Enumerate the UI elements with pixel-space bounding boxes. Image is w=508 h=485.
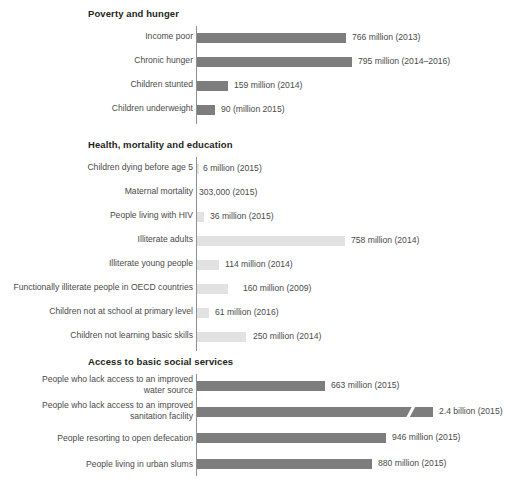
section-title: Health, mortality and education [88, 139, 233, 150]
bar-shape [197, 332, 246, 342]
bar-shape [197, 381, 325, 391]
bar-row: Functionally illiterate people in OECD c… [0, 277, 508, 301]
bar-shape [197, 308, 209, 318]
bar-shape [197, 105, 215, 115]
section-title: Poverty and hunger [88, 8, 179, 19]
bar-row-label: People who lack access to an improved wa… [8, 374, 193, 395]
bar-shape [197, 459, 372, 469]
bar-row-label: Chronic hunger [8, 55, 193, 66]
bar-shape [197, 33, 346, 43]
bar-value-label: 663 million (2015) [331, 380, 399, 390]
bar-shape [197, 81, 228, 91]
bar-shape [197, 212, 204, 222]
bar-value-label: 90 (million 2015) [221, 104, 285, 114]
bar-row-label: Functionally illiterate people in OECD c… [8, 282, 193, 293]
bar-row: Children not at school at primary level … [0, 301, 508, 325]
bar-row-label: People resorting to open defecation [8, 433, 193, 444]
bar-value-label: 946 million (2015) [392, 432, 460, 442]
bar-row: Income poor 766 million (2013) [0, 26, 508, 50]
bar-value-label: 795 million (2014–2016) [358, 56, 450, 66]
bar-shape [197, 57, 352, 67]
bar-row-label: People living with HIV [8, 210, 193, 221]
bar-row-label: Children stunted [8, 79, 193, 90]
bar-row-label: Income poor [8, 31, 193, 42]
bar-row-label: Illiterate adults [8, 234, 193, 245]
bar-row: Illiterate young people 114 million (201… [0, 253, 508, 277]
axis-break-icon [405, 406, 417, 418]
bar-row-label: Maternal mortality [8, 186, 193, 197]
bar-value-label: 250 million (2014) [253, 331, 321, 341]
bar-shape [197, 284, 228, 294]
bar-row: Children dying before age 5 6 million (2… [0, 157, 508, 181]
bar-row: Children underweight 90 (million 2015) [0, 98, 508, 122]
bar-shape [197, 433, 386, 443]
bar-row-label: Children not at school at primary level [8, 306, 193, 317]
section-title: Access to basic social services [88, 356, 233, 367]
bar-value-label: 880 million (2015) [378, 458, 446, 468]
bar-row-label: Children not learning basic skills [8, 330, 193, 341]
bar-row-label: People living in urban slums [8, 459, 193, 470]
bar-row: People who lack access to an improved sa… [0, 400, 508, 424]
bar-value-label: 114 million (2014) [225, 259, 293, 269]
bar-row: People who lack access to an improved wa… [0, 374, 508, 398]
bar-value-label: 61 million (2016) [215, 307, 279, 317]
bar-row-label: Illiterate young people [8, 258, 193, 269]
bar-row-label: People who lack access to an improved sa… [8, 400, 193, 421]
bar-value-label: 2.4 billion (2015) [439, 406, 503, 416]
bar-value-label: 766 million (2013) [352, 32, 420, 42]
bar-shape [197, 407, 433, 417]
bar-value-label: 303,000 (2015) [199, 187, 257, 197]
bar-row: Children not learning basic skills 250 m… [0, 325, 508, 349]
bar-row: Maternal mortality 303,000 (2015) [0, 181, 508, 205]
bar-row: Illiterate adults 758 million (2014) [0, 229, 508, 253]
bar-row: People resorting to open defecation 946 … [0, 426, 508, 450]
bar-row: People living with HIV 36 million (2015) [0, 205, 508, 229]
bar-value-label: 758 million (2014) [351, 235, 419, 245]
bar-row: Chronic hunger 795 million (2014–2016) [0, 50, 508, 74]
bar-value-label: 159 million (2014) [234, 80, 302, 90]
bar-value-label: 160 million (2009) [243, 283, 311, 293]
bar-row-label: Children dying before age 5 [8, 162, 193, 173]
infographic-bar-chart: Poverty and hunger Income poor 766 milli… [0, 0, 508, 485]
bar-row: People living in urban slums 880 million… [0, 452, 508, 476]
bar-row-label: Children underweight [8, 103, 193, 114]
bar-shape [197, 236, 345, 246]
bar-value-label: 6 million (2015) [203, 163, 262, 173]
bar-value-label: 36 million (2015) [210, 211, 274, 221]
bar-shape [197, 164, 199, 174]
bar-row: Children stunted 159 million (2014) [0, 74, 508, 98]
bar-shape [197, 260, 219, 270]
